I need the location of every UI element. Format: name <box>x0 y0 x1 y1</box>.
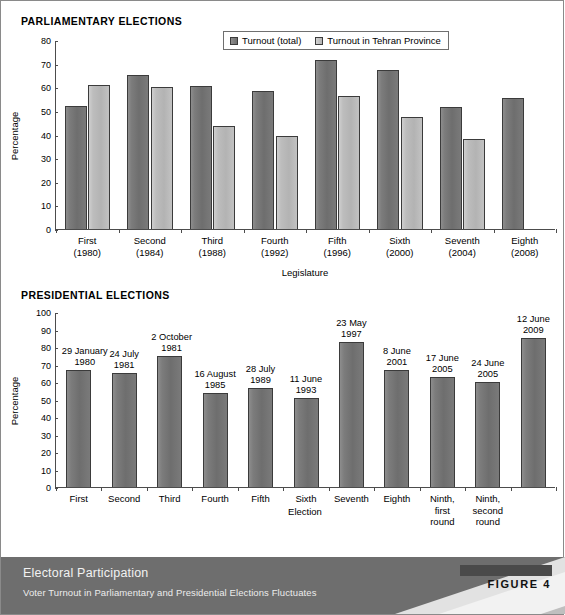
category-line: Ninth, <box>465 493 510 505</box>
tick-mark <box>55 383 58 384</box>
chart2-bar <box>294 398 319 487</box>
figure-number-label: FIGURE 4 <box>460 578 552 590</box>
data-label-line: 2005 <box>471 369 504 380</box>
chart2-category-label: Sixth <box>283 493 328 505</box>
data-label-line: 1980 <box>62 357 108 368</box>
data-label-line: 12 June <box>517 314 550 325</box>
category-line: First <box>56 493 101 505</box>
tick-mark <box>55 436 58 437</box>
chart2-y-tick: 80 <box>41 343 56 353</box>
chart2-data-label: 17 June2005 <box>426 353 459 375</box>
chart2-y-tick: 50 <box>41 396 56 406</box>
chart2-bar <box>248 388 273 487</box>
data-label-line: 2009 <box>517 325 550 336</box>
chart2-x-tick <box>374 487 375 491</box>
chart2-bar <box>384 370 409 487</box>
figure-badge-bar <box>460 565 552 576</box>
chart2-y-tick: 20 <box>41 448 56 458</box>
chart2-bar <box>203 393 228 488</box>
chart2-data-label: 24 June2005 <box>471 358 504 380</box>
data-label-line: 23 May <box>336 318 367 329</box>
chart2-x-axis-label: Election <box>55 506 555 517</box>
category-line: Seventh <box>329 493 374 505</box>
category-line: Sixth <box>283 493 328 505</box>
category-line: Second <box>101 493 146 505</box>
category-line: Third <box>147 493 192 505</box>
category-line: round <box>465 516 510 528</box>
chart2-y-tick: 10 <box>41 466 56 476</box>
chart2-data-label: 16 August1985 <box>194 369 235 391</box>
chart2-y-tick: 30 <box>41 431 56 441</box>
chart2-data-label: 12 June2009 <box>517 314 550 336</box>
data-label-line: 17 June <box>426 353 459 364</box>
chart2-data-label: 8 June2001 <box>383 346 411 368</box>
chart2-category-label: Fifth <box>238 493 283 505</box>
data-label-line: 8 June <box>383 346 411 357</box>
category-line: Fifth <box>238 493 283 505</box>
data-label-line: 1997 <box>336 329 367 340</box>
chart2-bar <box>157 356 182 487</box>
chart2-x-tick <box>556 487 557 491</box>
data-label-line: 24 July <box>109 349 138 360</box>
data-label-line: 11 June <box>290 374 322 385</box>
chart2-data-label: 24 July1981 <box>109 349 138 371</box>
chart2-x-tick <box>101 487 102 491</box>
tick-mark <box>55 471 58 472</box>
chart2-data-label: 11 June1993 <box>290 374 322 396</box>
chart2-x-tick <box>511 487 512 491</box>
chart2-bar <box>475 382 500 487</box>
footer-title: Electoral Participation <box>23 566 149 580</box>
chart2-plot-area: 0102030405060708090100First29 January198… <box>55 313 555 488</box>
chart2-x-tick <box>283 487 284 491</box>
chart2-x-tick <box>192 487 193 491</box>
data-label-line: 1985 <box>194 380 235 391</box>
chart2-x-tick <box>329 487 330 491</box>
chart2-y-tick: 90 <box>41 326 56 336</box>
chart2-data-label: 29 January1980 <box>62 346 108 368</box>
figure-number-badge: FIGURE 4 <box>460 565 552 590</box>
chart2-bar <box>339 342 364 487</box>
tick-mark <box>55 366 58 367</box>
footer-subtitle: Voter Turnout in Parliamentary and Presi… <box>23 587 317 598</box>
tick-mark <box>55 313 58 314</box>
chart2-category-label: Third <box>147 493 192 505</box>
chart2-y-tick: 40 <box>41 413 56 423</box>
chart2-y-tick: 60 <box>41 378 56 388</box>
chart2-x-tick <box>420 487 421 491</box>
chart2-bar <box>430 377 455 487</box>
tick-mark <box>55 453 58 454</box>
chart2-bar <box>521 338 546 487</box>
chart2-x-tick <box>147 487 148 491</box>
chart2-category-label: Eighth <box>374 493 419 505</box>
chart2-data-label: 2 October1981 <box>151 332 192 354</box>
chart2-x-tick <box>56 487 57 491</box>
presidential-elections-chart: 0102030405060708090100First29 January198… <box>1 1 565 615</box>
chart2-category-label: First <box>56 493 101 505</box>
chart2-x-tick <box>465 487 466 491</box>
category-line: Ninth, <box>420 493 465 505</box>
category-line: Eighth <box>374 493 419 505</box>
chart2-data-label: 23 May1997 <box>336 318 367 340</box>
tick-mark <box>55 401 58 402</box>
data-label-line: 2 October <box>151 332 192 343</box>
data-label-line: 24 June <box>471 358 504 369</box>
data-label-line: 2005 <box>426 364 459 375</box>
data-label-line: 1981 <box>109 360 138 371</box>
chart2-category-label: Seventh <box>329 493 374 505</box>
chart2-y-tick: 70 <box>41 361 56 371</box>
chart2-bar <box>66 370 91 487</box>
tick-mark <box>55 348 58 349</box>
data-label-line: 1981 <box>151 343 192 354</box>
chart2-category-label: Fourth <box>192 493 237 505</box>
tick-mark <box>55 418 58 419</box>
data-label-line: 16 August <box>194 369 235 380</box>
data-label-line: 29 January <box>62 346 108 357</box>
data-label-line: 28 July <box>246 364 275 375</box>
chart2-y-axis-label: Percentage <box>9 356 21 446</box>
chart2-data-label: 28 July1989 <box>246 364 275 386</box>
data-label-line: 2001 <box>383 357 411 368</box>
chart2-bar <box>112 373 137 487</box>
chart2-category-label: Second <box>101 493 146 505</box>
chart2-y-tick: 0 <box>46 483 56 493</box>
